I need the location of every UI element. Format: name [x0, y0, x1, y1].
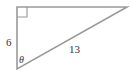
hypotenuse-label: 13 [69, 43, 81, 55]
angle-theta-label: θ [19, 54, 24, 65]
right-angle-marker [17, 7, 27, 17]
right-triangle [17, 7, 127, 69]
triangle-diagram: 6 13 θ [0, 0, 132, 76]
vertical-side-label: 6 [6, 36, 12, 48]
